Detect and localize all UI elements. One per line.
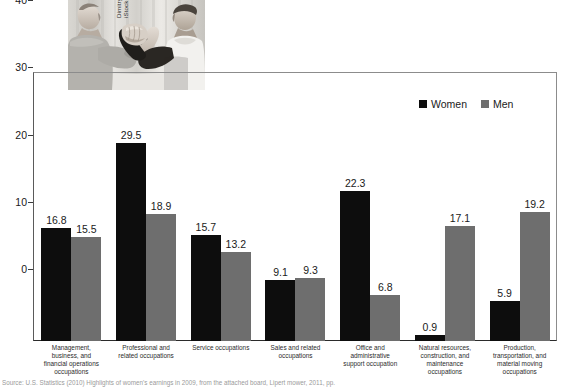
bar-men: [146, 214, 176, 341]
category-label: Natural resources, construction, and mai…: [404, 344, 487, 376]
legend-label: Women: [431, 98, 467, 110]
category-label: Office and administrative support occupa…: [329, 344, 412, 368]
legend-swatch-icon: [481, 100, 489, 108]
bar-value-label: 15.7: [185, 221, 227, 233]
photo-credit: Dimitry Shironosov/ iStockphoto: [115, 0, 131, 18]
bar-value-label: 19.2: [514, 198, 556, 210]
y-tick-mark: [28, 67, 33, 68]
category-label: Production, transportation, and material…: [478, 344, 561, 376]
legend: WomenMen: [419, 98, 513, 110]
bar-value-label: 22.3: [334, 177, 376, 189]
category-label: Sales and related occupations: [254, 344, 337, 360]
bar-women: [490, 301, 520, 341]
legend-item: Men: [481, 98, 513, 110]
y-tick-mark: [28, 135, 33, 136]
bar-women: [116, 143, 146, 341]
category-label: Management, business, and financial oper…: [30, 344, 113, 376]
y-tick-mark: [28, 0, 33, 1]
bar-group: 16.815.5: [34, 72, 109, 341]
category-label: Service occupations: [179, 344, 262, 352]
bar-value-label: 17.1: [439, 212, 481, 224]
bar-women: [415, 335, 445, 341]
y-tick-label: 10: [15, 196, 27, 208]
bar-value-label: 6.8: [364, 281, 406, 293]
y-tick-label: 30: [15, 61, 27, 73]
bar-men: [445, 226, 475, 341]
y-tick-mark: [28, 269, 33, 270]
bar-value-label: 18.9: [140, 200, 182, 212]
y-axis: 010203040: [0, 0, 33, 270]
bar-men: [520, 212, 550, 341]
bar-women: [41, 228, 71, 341]
y-tick-label: 0: [21, 263, 27, 275]
bar-value-label: 29.5: [110, 129, 152, 141]
source-note: Source: U.S. Statistics (2010) Highlight…: [2, 379, 562, 387]
y-tick-label: 20: [15, 129, 27, 141]
bar-men: [71, 237, 101, 341]
bar-women: [191, 235, 221, 341]
bar-group: 0.917.1: [408, 72, 483, 341]
y-tick-label: 40: [15, 0, 27, 6]
bar-men: [221, 252, 251, 341]
y-tick-mark: [28, 202, 33, 203]
bar-men: [370, 295, 400, 341]
bar-men: [295, 278, 325, 341]
bar-value-label: 13.2: [215, 238, 257, 250]
bars-layer: 16.815.529.518.915.713.29.19.322.36.80.9…: [34, 72, 557, 341]
bar-group: 15.713.2: [183, 72, 258, 341]
legend-label: Men: [493, 98, 513, 110]
legend-swatch-icon: [419, 100, 427, 108]
bar-women: [340, 191, 370, 341]
bar-value-label: 9.3: [289, 264, 331, 276]
bar-group: 5.919.2: [482, 72, 557, 341]
category-label: Professional and related occupations: [105, 344, 188, 360]
bar-group: 22.36.8: [333, 72, 408, 341]
bar-group: 29.518.9: [109, 72, 184, 341]
legend-item: Women: [419, 98, 467, 110]
bar-women: [265, 280, 295, 341]
bar-value-label: 15.5: [65, 223, 107, 235]
bar-group: 9.19.3: [258, 72, 333, 341]
